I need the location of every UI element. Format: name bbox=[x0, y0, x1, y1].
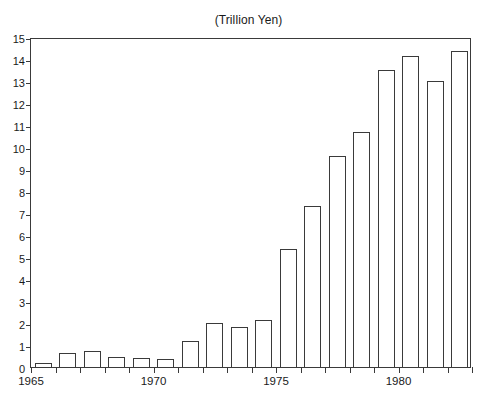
x-axis-tick-mark bbox=[252, 367, 253, 373]
bar bbox=[59, 353, 76, 367]
bar bbox=[329, 156, 346, 367]
chart-title: (Trillion Yen) bbox=[0, 13, 497, 27]
y-axis-tick-mark bbox=[26, 83, 31, 84]
x-axis-tick-mark bbox=[276, 367, 277, 373]
bar bbox=[353, 132, 370, 367]
x-axis-tick-mark bbox=[129, 367, 130, 373]
x-axis-tick-mark bbox=[423, 367, 424, 373]
y-axis-tick-mark bbox=[26, 215, 31, 216]
bar bbox=[157, 359, 174, 367]
x-axis-tick-mark bbox=[203, 367, 204, 373]
x-axis-tick-mark bbox=[31, 367, 32, 373]
plot-area: 0123456789101112131415 1965197019751980 bbox=[30, 38, 471, 368]
bar bbox=[451, 51, 468, 367]
x-axis-tick-mark bbox=[448, 367, 449, 373]
y-axis-tick-mark bbox=[26, 193, 31, 194]
x-axis-tick-mark bbox=[350, 367, 351, 373]
y-axis-tick-mark bbox=[26, 39, 31, 40]
bar bbox=[378, 70, 395, 367]
y-axis-tick-mark bbox=[26, 149, 31, 150]
bar bbox=[427, 81, 444, 367]
x-axis-tick-mark bbox=[56, 367, 57, 373]
bar bbox=[108, 357, 125, 367]
y-axis-tick-mark bbox=[26, 127, 31, 128]
y-axis-tick-mark bbox=[26, 237, 31, 238]
y-axis-tick-mark bbox=[26, 325, 31, 326]
bar bbox=[206, 323, 223, 367]
bar bbox=[402, 56, 419, 367]
y-axis-tick-mark bbox=[26, 303, 31, 304]
x-axis-tick-mark bbox=[154, 367, 155, 373]
x-axis-tick-label: 1970 bbox=[141, 376, 167, 388]
x-axis-tick-mark bbox=[178, 367, 179, 373]
x-axis-tick-label: 1965 bbox=[18, 376, 44, 388]
y-axis-tick-mark bbox=[26, 347, 31, 348]
bar bbox=[231, 327, 248, 367]
x-axis-tick-mark bbox=[374, 367, 375, 373]
x-axis-tick-mark bbox=[325, 367, 326, 373]
x-axis-tick-mark bbox=[227, 367, 228, 373]
x-axis-tick-label: 1975 bbox=[263, 376, 289, 388]
y-axis-tick-mark bbox=[26, 61, 31, 62]
bar bbox=[280, 249, 297, 367]
y-axis-tick-mark bbox=[26, 281, 31, 282]
y-axis-tick-mark bbox=[26, 105, 31, 106]
x-axis-tick-mark bbox=[301, 367, 302, 373]
bar bbox=[84, 351, 101, 368]
x-axis-tick-mark bbox=[80, 367, 81, 373]
chart-figure: (Trillion Yen) 0123456789101112131415 19… bbox=[0, 0, 497, 403]
x-axis-tick-mark bbox=[105, 367, 106, 373]
bar bbox=[35, 363, 52, 367]
x-axis-tick-mark bbox=[472, 367, 473, 373]
bar bbox=[182, 341, 199, 367]
bar bbox=[133, 358, 150, 367]
x-axis-tick-mark bbox=[399, 367, 400, 373]
bar bbox=[304, 206, 321, 367]
x-axis-tick-label: 1980 bbox=[386, 376, 412, 388]
y-axis-tick-mark bbox=[26, 171, 31, 172]
y-axis-tick-mark bbox=[26, 259, 31, 260]
bar bbox=[255, 320, 272, 367]
y-axis-tick-label: 0 bbox=[19, 364, 31, 375]
